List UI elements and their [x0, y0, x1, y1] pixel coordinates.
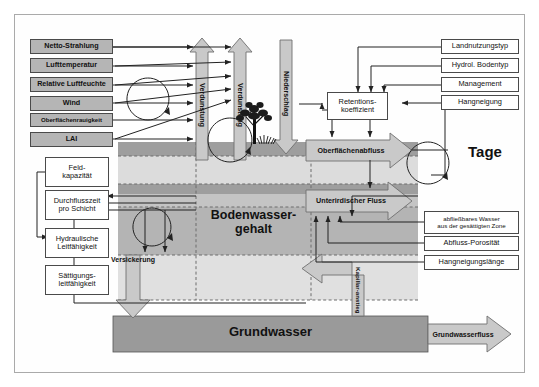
- input-box-lufttemperatur[interactable]: Lufttemperatur: [30, 58, 113, 73]
- node-retentionskoeffizient[interactable]: Retentions- koeffizient: [327, 92, 388, 120]
- param-label: Durchflusszeit pro Schicht: [54, 197, 100, 214]
- label-unterirdischer-fluss: Unterirdischer Fluss: [308, 194, 394, 207]
- param-box-landnutzungstyp[interactable]: Landnutzungstyp: [441, 39, 519, 54]
- input-box-netto-strahlung[interactable]: Netto-Strahlung: [30, 39, 113, 54]
- kapillar-text: Kapillar-anstieg: [355, 267, 362, 313]
- node-label: Retentions- koeffizient: [339, 98, 377, 115]
- input-label: Lufttemperatur: [46, 61, 97, 69]
- label-niederschlag: Niederschlag: [280, 46, 292, 142]
- label-versickerung: Versickerung: [100, 252, 166, 266]
- input-box-oberflaechenrauigkeit[interactable]: Oberflächenrauigkeit: [30, 113, 113, 127]
- param-box-hydrol-bodentyp[interactable]: Hydrol. Bodentyp: [441, 58, 519, 73]
- diagram-canvas: Netto-Strahlung Lufttemperatur Relative …: [0, 0, 539, 387]
- param-label: Landnutzungstyp: [452, 42, 508, 50]
- label-bodenwassergehalt: Bodenwasser- gehalt: [196, 208, 311, 237]
- label-grundwasser: Grundwasser: [113, 325, 428, 340]
- param-box-hangneigung[interactable]: Hangneigung: [441, 95, 519, 110]
- param-label: Hangneigung: [458, 98, 502, 106]
- input-label: Relative Luftfeuchte: [37, 80, 106, 88]
- label-tage: Tage: [455, 143, 515, 160]
- input-label: Wind: [63, 99, 81, 107]
- param-box-hangneigungslaenge[interactable]: Hangneigungslänge: [424, 255, 519, 270]
- param-label: Hydraulische Leitfähigkeit: [56, 235, 99, 252]
- param-box-management[interactable]: Management: [441, 77, 519, 92]
- param-box-abfluss-porositaet[interactable]: Abfluss-Porosität: [424, 236, 519, 251]
- param-label: Management: [458, 80, 501, 88]
- param-label: Abfluss-Porosität: [444, 239, 500, 247]
- input-box-wind[interactable]: Wind: [30, 96, 113, 111]
- label-verdunstung-1: Verdunstung: [196, 52, 208, 157]
- input-label: LAI: [66, 135, 78, 143]
- label-verdunstung-2: Verdunstung: [234, 52, 246, 157]
- param-label: Feld- kapazität: [62, 164, 92, 181]
- param-box-abfliessbares-wasser[interactable]: abfließbares Wasser aus der gesättigten …: [424, 211, 519, 234]
- input-label: Oberflächenrauigkeit: [41, 117, 102, 124]
- param-box-saettigungsleitfaehigkeit[interactable]: Sättigungs- leitfähigkeit: [45, 265, 109, 295]
- input-box-relative-luftfeuchte[interactable]: Relative Luftfeuchte: [30, 77, 113, 92]
- param-box-feldkapazitaet[interactable]: Feld- kapazität: [45, 157, 109, 187]
- param-label: abfließbares Wasser aus der gesättigten …: [437, 216, 505, 230]
- param-label: Sättigungs- leitfähigkeit: [58, 272, 95, 289]
- label-kapillaranstieg: Kapillar-anstieg: [352, 265, 364, 315]
- label-grundwasserfluss: Grundwasserfluss: [428, 327, 498, 341]
- param-label: Hydrol. Bodentyp: [452, 61, 509, 69]
- param-box-durchflusszeit[interactable]: Durchflusszeit pro Schicht: [45, 190, 109, 220]
- input-label: Netto-Strahlung: [44, 42, 98, 50]
- label-oberflaechenabfluss: Oberflächenabfluss: [308, 144, 394, 157]
- bodenwasser-line2: gehalt: [235, 222, 272, 236]
- input-box-lai[interactable]: LAI: [30, 132, 113, 147]
- param-label: Hangneigungslänge: [439, 258, 505, 266]
- bodenwasser-line1: Bodenwasser-: [211, 208, 296, 222]
